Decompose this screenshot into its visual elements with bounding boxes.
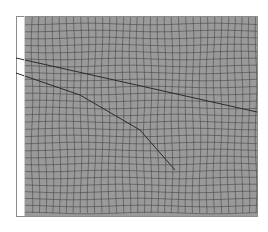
mesh-figure [0,0,268,232]
mesh-canvas [0,0,268,232]
